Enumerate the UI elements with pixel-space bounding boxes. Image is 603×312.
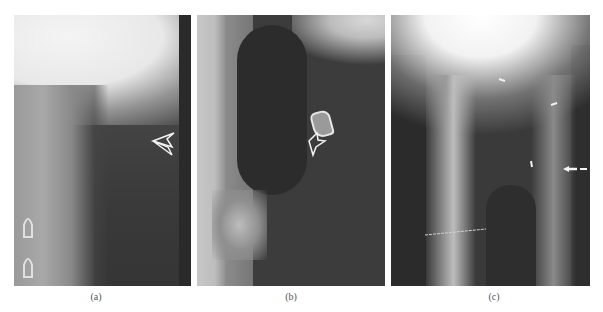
tomogram-markers (391, 15, 590, 286)
panel-label-a: (a) (76, 291, 116, 302)
scan-line (425, 229, 486, 235)
small-arrow-icon (551, 103, 557, 105)
open-arrow-icon (14, 15, 191, 286)
panel-label-c: (c) (474, 291, 514, 302)
dashed-arrow-icon (563, 166, 587, 172)
xray-panel-c (391, 15, 590, 286)
small-arrow-icon (531, 161, 532, 167)
open-arrow-icon (197, 15, 385, 286)
small-arrow-icon (499, 79, 505, 81)
xray-panel-b (197, 15, 385, 286)
panel-label-b: (b) (271, 291, 311, 302)
xray-panel-a (14, 15, 191, 286)
